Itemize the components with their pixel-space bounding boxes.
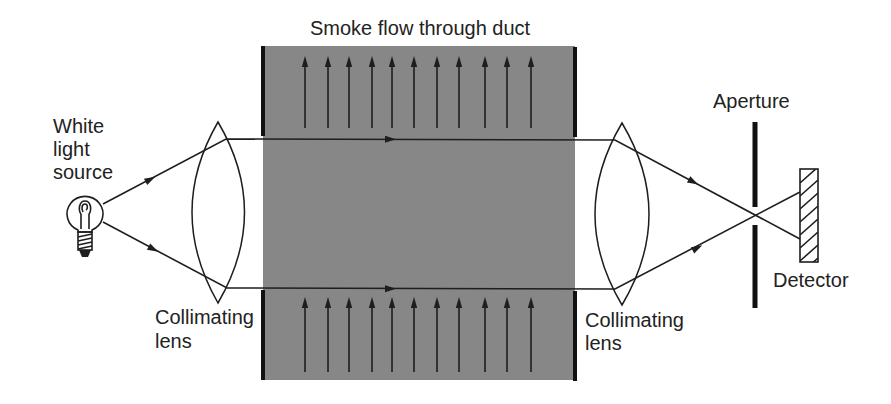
duct-wall-right-lower (573, 291, 577, 381)
light-source-label: White light source (53, 115, 113, 183)
collimating-lens-right (595, 123, 649, 305)
duct (261, 46, 577, 381)
aperture-upper-blade (753, 122, 758, 207)
light-source-label-line-3: source (53, 161, 113, 183)
duct-wall-left-lower (261, 290, 265, 380)
aperture-lower-blade (753, 225, 758, 308)
bulb-filament (79, 201, 90, 229)
smoke-detector-optics-diagram: Smoke flow through duct (0, 0, 891, 404)
bulb-contact (79, 250, 91, 257)
ray-arrowhead (687, 176, 700, 187)
duct-title: Smoke flow through duct (310, 17, 531, 39)
duct-wall-right-upper (573, 47, 577, 137)
duct-wall-left-upper (261, 46, 265, 136)
lens-right-label-line-1: Collimating (585, 309, 684, 331)
aperture-label: Aperture (713, 90, 790, 112)
light-bulb-icon (67, 196, 103, 257)
lens-left-label-line-1: Collimating (155, 306, 254, 328)
ray-arrowhead (147, 244, 160, 255)
light-source-label-line-1: White (53, 115, 104, 137)
lens-left-label: Collimating lens (155, 306, 254, 352)
light-source-label-line-2: light (53, 138, 90, 160)
lens-right-label-line-2: lens (585, 332, 622, 354)
lens-left-label-line-2: lens (155, 330, 192, 352)
collimating-lens-left (192, 122, 245, 303)
lens-right-label: Collimating lens (585, 309, 684, 354)
smoke-region (263, 46, 575, 380)
detector-label: Detector (773, 269, 849, 291)
ray-arrowhead (144, 174, 157, 185)
bulb-screw-base (78, 232, 92, 257)
